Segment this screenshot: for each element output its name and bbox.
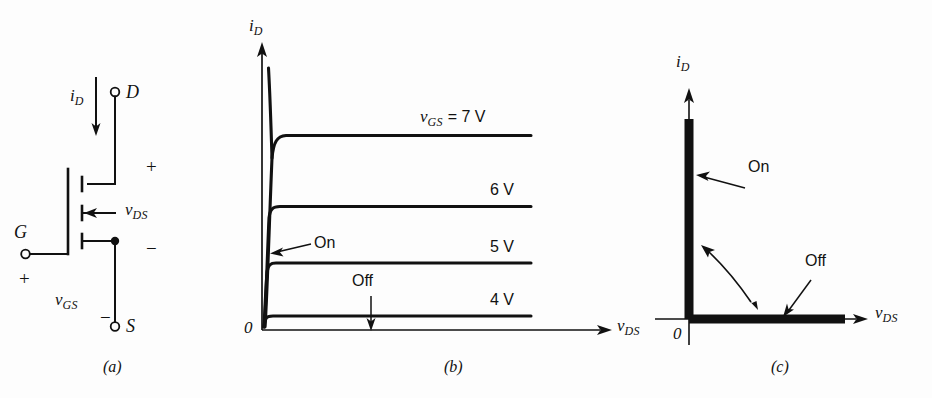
curve-vgs-4v xyxy=(264,316,532,327)
panel-c-x-axis-label: vDS xyxy=(875,303,898,326)
panel-b-off-label: Off xyxy=(352,272,373,290)
panel-b-x-axis xyxy=(262,325,612,335)
panel-a-vds-minus: − xyxy=(146,238,157,260)
panel-b-y-axis-label: iD xyxy=(249,16,263,39)
panel-a-vgs-label: vGS xyxy=(55,290,78,313)
panel-a-vgs-minus: − xyxy=(100,307,111,329)
panel-a-caption: (a) xyxy=(103,358,122,376)
panel-c-off-arrow xyxy=(783,280,811,317)
panel-c-origin-label: 0 xyxy=(673,324,682,344)
source-terminal-node xyxy=(111,322,120,331)
panel-c-caption: (c) xyxy=(771,358,789,376)
panel-c-on-label: On xyxy=(748,158,769,176)
panel-a-drain-label: D xyxy=(126,82,139,103)
curve-on-steep-extension xyxy=(269,68,273,158)
panel-c-y-axis-label: iD xyxy=(676,52,690,75)
panel-b-vgs-5v-label: 5 V xyxy=(490,238,514,256)
panel-b-on-arrow xyxy=(270,244,311,257)
panel-c-off-label: Off xyxy=(805,252,826,270)
panel-b-vgs-6v-label: 6 V xyxy=(490,181,514,199)
panel-a-current-label: iD xyxy=(70,86,84,109)
panel-a-vds-plus: + xyxy=(146,156,157,178)
figure-root: iD D G S + − vDS + − vGS (a) iD vDS 0 On… xyxy=(0,0,932,398)
drain-current-arrow xyxy=(92,78,101,136)
panel-b-x-axis-label: vDS xyxy=(617,316,640,339)
panel-b-origin-label: 0 xyxy=(244,318,253,338)
figure-drawing xyxy=(0,0,932,398)
panel-c-drawing xyxy=(655,88,868,345)
panel-c-on-arrow xyxy=(696,172,745,189)
panel-b-vgs-4v-label: 4 V xyxy=(490,291,514,309)
panel-a-gate-label: G xyxy=(14,222,27,243)
panel-b-drawing xyxy=(257,42,612,335)
state-transition-double-arrow xyxy=(701,245,758,310)
panel-b-off-arrow xyxy=(367,296,376,331)
panel-a-source-label: S xyxy=(126,316,135,337)
panel-a-vgs-plus: + xyxy=(19,268,30,290)
gate-terminal-node xyxy=(21,250,30,259)
panel-a-vds-label: vDS xyxy=(125,200,148,223)
drain-terminal-node xyxy=(111,88,120,97)
panel-b-vgs-7v-label: vGS = 7 VvGS= 7 V xyxy=(420,107,485,130)
panel-b-on-label: On xyxy=(314,234,335,252)
panel-b-caption: (b) xyxy=(444,358,463,376)
